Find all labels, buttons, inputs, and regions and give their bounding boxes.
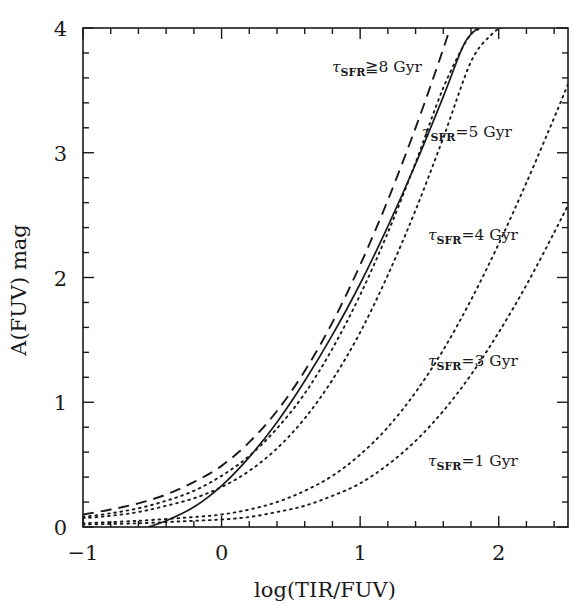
label-tau-3: τSFR=3 Gyr (428, 352, 518, 373)
plot-svg: −1012 01234 τSFR≧8 GyrτSFR=5 GyrτSFR=4 G… (0, 0, 588, 610)
label-tau-1: τSFR=1 Gyr (428, 452, 518, 473)
x-axis-title: log(TIR/FUV) (254, 578, 396, 602)
y-axis-title: A(FUV) mag (7, 224, 31, 357)
y-tick-label: 4 (54, 17, 67, 41)
label-tau-ge-8: τSFR≧8 Gyr (332, 58, 422, 79)
y-tick-label: 0 (54, 516, 67, 540)
x-tick-labels: −1012 (68, 541, 506, 565)
x-tick-label: 1 (353, 541, 366, 565)
curve-0 (83, 28, 450, 515)
label-tau-5: τSFR=5 Gyr (422, 123, 512, 144)
curve-annotations: τSFR≧8 GyrτSFR=5 GyrτSFR=4 GyrτSFR=3 Gyr… (332, 58, 518, 473)
x-tick-label: 0 (215, 541, 228, 565)
figure-canvas: −1012 01234 τSFR≧8 GyrτSFR=5 GyrτSFR=4 G… (0, 0, 588, 610)
x-tick-label: 2 (492, 541, 505, 565)
y-tick-label: 1 (54, 391, 67, 415)
y-tick-labels: 01234 (54, 17, 67, 540)
y-tick-label: 3 (54, 142, 67, 166)
label-tau-4: τSFR=4 Gyr (428, 226, 518, 247)
curve-2 (83, 28, 482, 517)
y-tick-label: 2 (54, 267, 67, 291)
x-tick-label: −1 (68, 541, 99, 565)
